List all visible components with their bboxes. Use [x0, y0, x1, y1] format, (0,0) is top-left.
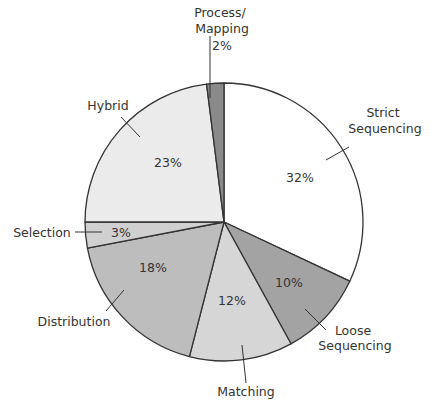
pct-strict-sequencing: 32% [286, 170, 314, 185]
pie-slices [85, 83, 363, 361]
label-matching: Matching [217, 384, 274, 399]
pct-selection: 3% [111, 225, 131, 240]
pct-distribution: 18% [139, 260, 167, 275]
pct-process-mapping: 2% [212, 38, 232, 53]
pie-chart: Process/ Mapping 2% Strict Sequencing Lo… [0, 0, 434, 402]
pct-matching: 12% [218, 293, 246, 308]
pct-loose-sequencing: 10% [275, 275, 303, 290]
label-hybrid: Hybrid [87, 98, 128, 113]
label-loose-sequencing: Loose Sequencing [318, 323, 391, 353]
label-strict-sequencing: Strict Sequencing [348, 105, 421, 136]
label-distribution: Distribution [38, 314, 111, 329]
label-process-mapping: Process/ Mapping [194, 5, 250, 36]
label-selection: Selection [13, 225, 71, 240]
pct-hybrid: 23% [154, 155, 182, 170]
